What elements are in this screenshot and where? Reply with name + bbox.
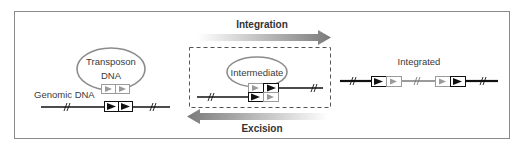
genomic-dna-label: Genomic DNA [34,89,95,100]
excision-arrow: Excision [187,109,328,134]
transposon-integration-diagram: Transposon DNA Genomic DNA Integration [0,0,523,148]
intermediate-att-sites [249,84,279,102]
genomic-att-site [105,102,133,112]
intermediate-label: Intermediate [231,67,284,78]
intermediate-panel: Intermediate [197,57,323,102]
donor-panel: Transposon DNA Genomic DNA [34,48,170,112]
transposon-att-site [102,85,130,94]
integrated-label: Integrated [398,56,441,67]
transposon-ellipse [77,48,145,90]
integration-label: Integration [236,19,288,30]
integration-arrow: Integration [198,19,331,45]
transposon-label-line2: DNA [101,70,122,81]
integrated-panel: Integrated [340,56,498,87]
transposon-label-line1: Transposon [86,56,136,67]
excision-label: Excision [241,123,282,134]
